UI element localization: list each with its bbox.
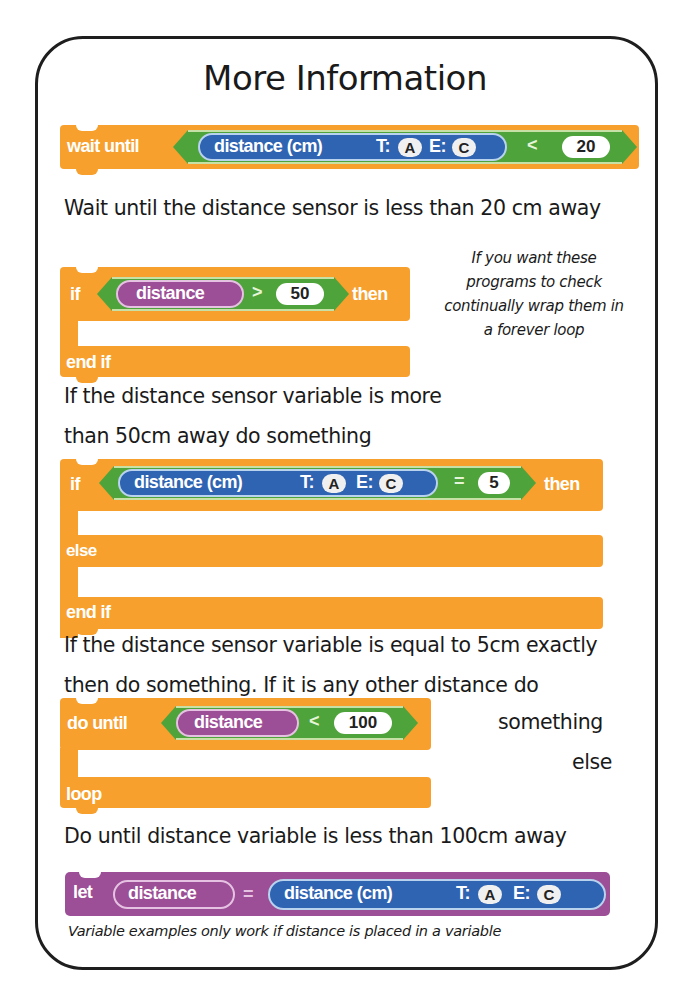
inner-notch-fill (90, 321, 112, 327)
keyword-loop: loop (66, 784, 102, 805)
operator-symbol: = (243, 884, 254, 905)
keyword-wait-until: wait until (67, 136, 139, 157)
forever-loop-tip: If you want these programs to check cont… (414, 246, 654, 342)
t-label: T: (376, 136, 390, 157)
keyword-end-if: end if (66, 352, 110, 373)
e-label: E: (429, 136, 446, 157)
distance-sensor-reporter[interactable]: distance (cm) T: A E: C (198, 133, 507, 161)
block-notch (76, 459, 98, 465)
loop-footer (60, 777, 431, 808)
e-port-dropdown[interactable]: C (452, 138, 476, 157)
end-if-footer (60, 597, 603, 629)
tip-line-1: If you want these (414, 246, 654, 270)
block-tab (76, 808, 98, 814)
less-than-operator[interactable]: distance (cm) T: A E: C < 20 (188, 130, 622, 164)
hex-left-point (161, 706, 176, 740)
operator-symbol: = (454, 471, 465, 492)
wait-until-caption: Wait until the distance sensor is less t… (64, 196, 601, 220)
equals-operator[interactable]: distance (cm) T: A E: C = 5 (114, 466, 521, 500)
variable-label: distance (128, 883, 196, 904)
hex-right-point (622, 130, 637, 164)
hex-right-point (403, 706, 418, 740)
operator-symbol: > (252, 282, 263, 303)
greater-than-operator[interactable]: distance > 50 (112, 277, 334, 311)
distance-sensor-reporter[interactable]: distance (cm) T: A E: C (268, 879, 606, 910)
if-else-caption-line-3: something (498, 710, 603, 734)
keyword-then: then (352, 284, 388, 305)
sensor-label: distance (cm) (214, 136, 322, 157)
if-caption-line-1: If the distance sensor variable is more (64, 384, 441, 408)
t-port-dropdown[interactable]: A (478, 885, 502, 904)
value-input[interactable]: 50 (276, 283, 324, 305)
keyword-then: then (544, 474, 580, 495)
e-port-dropdown[interactable]: C (379, 474, 403, 493)
variable-name-field[interactable]: distance (113, 880, 235, 909)
page-title: More Information (0, 58, 690, 98)
hex-right-point (334, 277, 349, 311)
t-label: T: (456, 883, 470, 904)
variable-label: distance (194, 712, 262, 733)
hex-left-point (99, 466, 114, 500)
less-than-operator[interactable]: distance < 100 (176, 706, 403, 740)
block-tab (76, 377, 98, 383)
e-port-dropdown[interactable]: C (537, 885, 561, 904)
keyword-else: else (66, 541, 97, 561)
block-notch (79, 872, 101, 878)
value-input[interactable]: 5 (478, 472, 510, 494)
operator-symbol: < (527, 135, 538, 156)
t-port-dropdown[interactable]: A (398, 138, 422, 157)
block-notch (76, 267, 98, 273)
tip-line-3: continually wrap them in (414, 294, 654, 318)
hex-left-point (173, 130, 188, 164)
else-bar (60, 535, 603, 567)
if-else-caption-line-4: else (572, 750, 612, 774)
sensor-label: distance (cm) (134, 472, 242, 493)
keyword-if: if (70, 474, 80, 495)
inner-notch-fill (90, 750, 112, 756)
t-label: T: (300, 472, 314, 493)
inner-notch-fill (90, 567, 112, 573)
do-until-caption: Do until distance variable is less than … (64, 824, 566, 848)
keyword-if: if (70, 284, 80, 305)
t-port-dropdown[interactable]: A (322, 474, 346, 493)
if-caption-line-2: than 50cm away do something (64, 424, 371, 448)
keyword-do-until: do until (67, 713, 127, 734)
variable-label: distance (136, 283, 204, 304)
distance-sensor-reporter[interactable]: distance (cm) T: A E: C (118, 469, 438, 497)
distance-variable-reporter[interactable]: distance (116, 280, 244, 308)
sensor-label: distance (cm) (284, 883, 392, 904)
if-else-caption-line-1: If the distance sensor variable is equal… (64, 633, 597, 657)
end-if-footer (60, 346, 410, 377)
inner-notch-fill (90, 511, 112, 517)
distance-variable-reporter[interactable]: distance (176, 709, 299, 737)
keyword-end-if: end if (66, 602, 110, 623)
value-input[interactable]: 100 (334, 712, 392, 734)
block-tab (76, 169, 98, 175)
hex-right-point (521, 466, 536, 500)
operator-symbol: < (309, 711, 320, 732)
hex-left-point (97, 277, 112, 311)
c-arm (60, 318, 78, 348)
tip-line-2: programs to check (414, 270, 654, 294)
e-label: E: (356, 472, 373, 493)
block-notch (76, 125, 98, 131)
keyword-let: let (73, 882, 92, 903)
block-notch (76, 698, 98, 704)
e-label: E: (513, 883, 530, 904)
value-input[interactable]: 20 (562, 136, 610, 158)
variable-note: Variable examples only work if distance … (68, 923, 501, 939)
inner-tab (90, 777, 112, 783)
tip-line-4: a forever loop (414, 318, 654, 342)
if-else-caption-line-2: then do something. If it is any other di… (64, 673, 538, 697)
